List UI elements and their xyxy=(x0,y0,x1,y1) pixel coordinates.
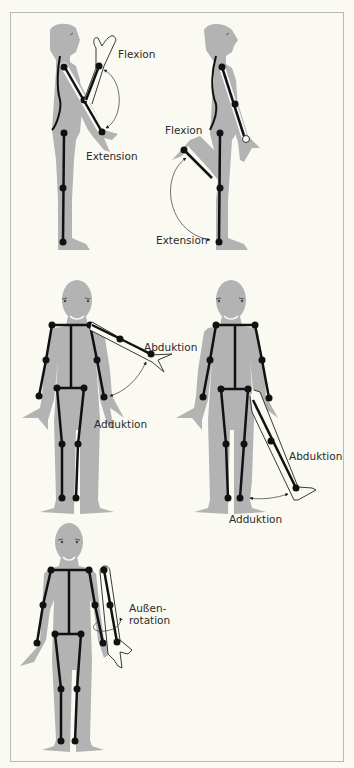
figure-hip-abduction xyxy=(176,280,316,514)
label-abduktion-shoulder: Abduktion xyxy=(144,341,197,353)
label-adduktion-hip: Adduktion xyxy=(229,513,282,525)
label-extension-hip: Extension xyxy=(156,234,208,246)
movement-diagram xyxy=(0,0,354,768)
figure-shoulder-flexion xyxy=(50,24,119,250)
label-abduktion-hip: Abduktion xyxy=(289,450,342,462)
label-flexion-hip: Flexion xyxy=(165,124,202,136)
figure-hip-flexion xyxy=(171,24,260,250)
label-rotation: rotation xyxy=(129,614,170,626)
label-aussen: Außen- xyxy=(129,602,166,614)
figure-shoulder-rotation xyxy=(20,523,132,752)
figure-shoulder-abduction xyxy=(22,280,172,514)
label-adduktion-shoulder: Adduktion xyxy=(94,418,147,430)
label-extension-shoulder: Extension xyxy=(86,150,138,162)
label-flexion-shoulder: Flexion xyxy=(118,48,155,60)
